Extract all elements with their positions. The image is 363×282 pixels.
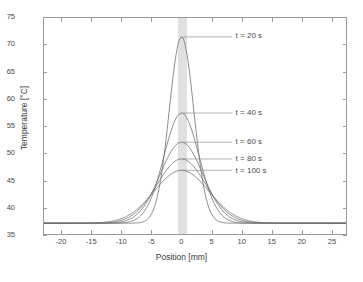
- x-tick-label: 0: [164, 238, 198, 246]
- x-tick-label: -10: [104, 238, 138, 246]
- x-tick-label: -5: [134, 238, 168, 246]
- annotation-t-80-s: t = 80 s: [236, 154, 262, 163]
- annotation-t-100-s: t = 100 s: [236, 166, 267, 175]
- source-region-band: [178, 18, 187, 234]
- y-tick-label: 45: [0, 177, 15, 185]
- heat-source-band: [178, 18, 187, 234]
- x-tick-label: 20: [285, 238, 319, 246]
- y-tick-label: 60: [0, 95, 15, 103]
- curves-svg: [44, 18, 346, 234]
- y-tick-mark: [343, 235, 347, 236]
- y-tick-label: 75: [0, 13, 15, 21]
- annotation-leader-lines: [183, 37, 233, 170]
- temperature-profile-chart: 354045505560657075 -20-15-10-50510152025…: [0, 0, 363, 282]
- y-axis-title: Temperature [°C]: [19, 48, 29, 188]
- y-tick-label: 65: [0, 68, 15, 76]
- temperature-curves: [44, 37, 346, 223]
- x-tick-label: -20: [44, 238, 78, 246]
- plot-area: [43, 17, 347, 235]
- curve-t-100-s: [44, 170, 346, 223]
- y-tick-label: 50: [0, 149, 15, 157]
- y-tick-label: 55: [0, 122, 15, 130]
- annotation-t-40-s: t = 40 s: [236, 108, 262, 117]
- annotation-t-20-s: t = 20 s: [236, 31, 262, 40]
- y-tick-label: 35: [0, 231, 15, 239]
- x-tick-label: 25: [315, 238, 349, 246]
- curve-t-80-s: [44, 159, 346, 223]
- y-tick-mark: [43, 235, 47, 236]
- x-tick-label: -15: [74, 238, 108, 246]
- y-tick-label: 70: [0, 40, 15, 48]
- x-tick-label: 15: [255, 238, 289, 246]
- x-axis-title: Position [mm]: [0, 252, 363, 262]
- annotation-t-60-s: t = 60 s: [236, 137, 262, 146]
- curve-t-20-s: [44, 37, 346, 223]
- y-tick-label: 40: [0, 204, 15, 212]
- x-tick-label: 10: [225, 238, 259, 246]
- x-tick-label: 5: [195, 238, 229, 246]
- curve-t-60-s: [44, 142, 346, 223]
